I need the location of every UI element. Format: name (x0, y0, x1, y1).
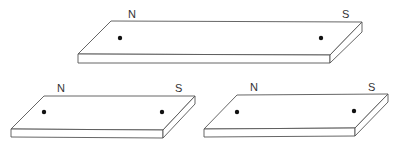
magnet-bottom-left-front-face (11, 129, 163, 138)
magnet-bottom-right-north-dot (235, 110, 239, 114)
magnet-bottom-left-north-dot (42, 110, 46, 114)
magnets-diagram: N S N S N S (0, 0, 396, 145)
magnet-bottom-right-north-label: N (250, 81, 258, 93)
magnet-top-south-label: S (342, 8, 349, 20)
magnet-top: N S (78, 8, 362, 63)
magnet-bottom-left-south-label: S (175, 82, 182, 94)
magnet-top-north-label: N (128, 8, 136, 20)
magnet-top-south-dot (319, 36, 323, 40)
magnet-top-north-dot (118, 36, 122, 40)
magnet-top-front-face (78, 54, 330, 63)
magnet-bottom-right-south-label: S (368, 81, 375, 93)
magnet-bottom-right: N S (204, 81, 388, 137)
magnet-bottom-left-south-dot (160, 110, 164, 114)
magnet-bottom-right-south-dot (352, 109, 356, 113)
magnet-bottom-right-front-face (204, 128, 355, 137)
magnet-bottom-left: N S (11, 82, 195, 138)
magnet-bottom-left-north-label: N (57, 82, 65, 94)
